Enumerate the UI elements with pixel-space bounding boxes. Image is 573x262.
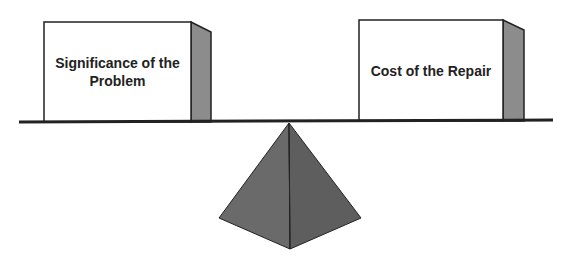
- right-weight-label: Cost of the Repair: [359, 20, 503, 121]
- fulcrum-pyramid: [219, 123, 361, 249]
- left-weight-label: Significance of the Problem: [44, 22, 191, 122]
